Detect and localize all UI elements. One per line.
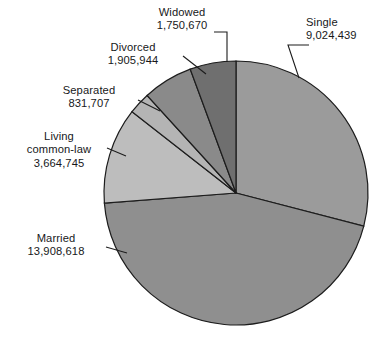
pie-label-married-name: Married xyxy=(10,232,102,245)
pie-label-single: Single 9,024,439 xyxy=(306,16,357,43)
pie-label-separated-value: 831,707 xyxy=(46,97,132,110)
pie-label-divorced-name: Divorced xyxy=(92,41,174,54)
pie-label-widowed-name: Widowed xyxy=(148,6,216,19)
pie-slices xyxy=(104,61,368,325)
pie-label-separated: Separated 831,707 xyxy=(46,84,132,111)
pie-label-widowed: Widowed 1,750,670 xyxy=(148,6,216,33)
pie-chart-canvas xyxy=(0,0,383,343)
leader-line-widowed xyxy=(214,32,227,62)
pie-label-living-common-law: Living common-law 3,664,745 xyxy=(14,130,104,170)
pie-label-living-common-law-value: 3,664,745 xyxy=(14,157,104,170)
pie-label-divorced: Divorced 1,905,944 xyxy=(92,41,174,68)
pie-label-married: Married 13,908,618 xyxy=(10,232,102,259)
pie-label-single-name: Single xyxy=(306,16,357,29)
pie-chart: Single 9,024,439 Widowed 1,750,670 Divor… xyxy=(0,0,383,343)
pie-label-living-common-law-name-line1: Living xyxy=(14,130,104,143)
pie-label-widowed-value: 1,750,670 xyxy=(148,19,216,32)
pie-label-living-common-law-name-line2: common-law xyxy=(14,143,104,156)
pie-label-married-value: 13,908,618 xyxy=(10,245,102,258)
pie-label-separated-name: Separated xyxy=(46,84,132,97)
pie-label-single-value: 9,024,439 xyxy=(306,29,357,42)
pie-label-divorced-value: 1,905,944 xyxy=(92,54,174,67)
